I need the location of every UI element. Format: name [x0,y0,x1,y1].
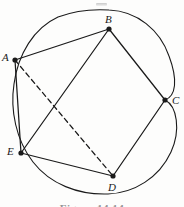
figure-caption-text: Figure 14.14 [60,202,124,207]
edge-A-B [15,29,109,60]
vertex-label-a: A [2,52,9,63]
vertex-label-c: C [172,95,179,106]
geometry-figure: ABCDE Figure 14.14 [0,0,184,207]
vertex-label-d: D [108,182,116,193]
pentagon-diagonals [15,29,113,176]
vertex-label-b: B [105,14,112,25]
figure-caption: Figure 14.14 [0,198,184,207]
edge-B-C [109,29,165,100]
vertex-label-e: E [7,146,14,157]
circumscribed-circle [13,10,177,194]
diagonal-B-E [21,29,109,153]
vertex-dots [12,26,167,178]
vertex-dot-d [110,173,115,178]
figure-canvas [0,0,184,207]
edge-C-D [113,100,165,176]
vertex-dot-c [162,97,167,102]
vertex-dot-b [106,26,111,31]
edge-E-A [15,60,21,153]
pentagon-edges [15,29,165,176]
diagonal-A-D [15,60,113,176]
vertex-dot-a [12,57,17,62]
vertex-dot-e [18,150,23,155]
